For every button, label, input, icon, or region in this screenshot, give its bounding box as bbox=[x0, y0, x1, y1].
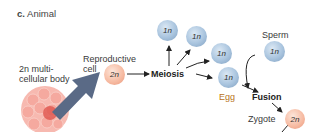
egg-label: Egg bbox=[219, 92, 235, 102]
zygote-label: Zygote bbox=[248, 114, 276, 124]
sperm-cell: 1n bbox=[264, 41, 285, 62]
haploid-cell-3: 1n bbox=[211, 43, 232, 64]
animal-life-cycle-diagram: c. Animal bbox=[0, 0, 319, 132]
haploid-cell-2: 1n bbox=[186, 26, 207, 47]
zygote-cell: 2n bbox=[285, 109, 305, 129]
multicellular-body-label: 2n multi- cellular body bbox=[19, 64, 70, 84]
meiosis-label: Meiosis bbox=[151, 69, 184, 79]
reproductive-cell: 2n bbox=[104, 64, 125, 85]
sperm-label: Sperm bbox=[262, 30, 289, 40]
fusion-label: Fusion bbox=[252, 92, 282, 102]
egg-cell: 1n bbox=[218, 67, 239, 88]
haploid-cell-1: 1n bbox=[157, 20, 178, 41]
